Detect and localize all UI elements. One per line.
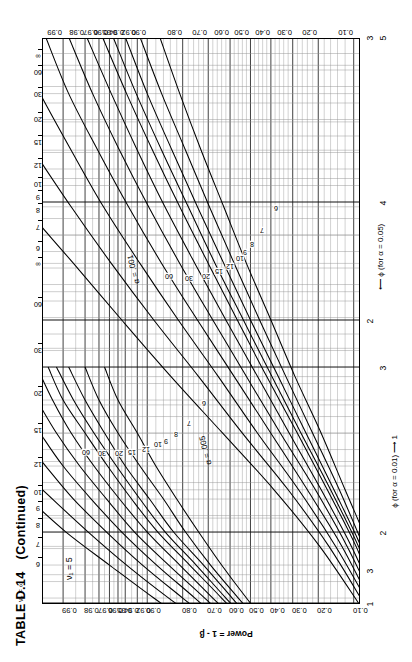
curve-label-alpha05: 15 — [128, 449, 137, 456]
curve-label-alpha01: 8 — [250, 240, 255, 247]
y-tick-label: 0.60 — [229, 606, 244, 615]
nu2-tick-alpha01: 10 — [34, 180, 42, 189]
nu2-tick-mark — [38, 241, 42, 242]
nu2-tick-mark — [38, 297, 42, 298]
nu2-tick-alpha05: 12 — [34, 460, 42, 469]
curve-label-alpha05: 10 — [154, 441, 163, 448]
nu2-tick-mark — [38, 343, 42, 344]
curve-label-alpha05: 12 — [141, 445, 150, 452]
page-title: TABLE D.14(Continued) — [14, 485, 28, 646]
curve-label-alpha05: 8 — [174, 431, 179, 438]
curve-label-alpha01: 30 — [185, 274, 194, 281]
nu2-tick-alpha01: 7 — [36, 223, 40, 232]
y-tick-label-right: 0.30 — [277, 28, 292, 37]
nu2-tick-alpha05: 7 — [36, 540, 40, 549]
nu2-tick-mark — [38, 485, 42, 486]
nu2-tick-mark — [38, 49, 42, 50]
y-axis-title: Power = 1 - β — [200, 629, 253, 639]
x-start-alpha05: 3 — [365, 561, 375, 581]
x-tick-alpha05: 5 — [378, 28, 388, 48]
nu2-tick-mark — [38, 135, 42, 136]
nu2-tick-alpha05: 60 — [34, 300, 42, 309]
curve-label-alpha01: 6 — [273, 204, 278, 211]
continued-label: (Continued) — [14, 485, 28, 560]
x-tick-alpha05: 3 — [378, 358, 388, 378]
nu2-tick-mark — [38, 87, 42, 88]
nu2-tick-mark — [38, 501, 42, 502]
x-tick-alpha05: 4 — [378, 193, 388, 213]
curve-label-alpha01: 10 — [235, 254, 244, 261]
y-tick-label-right: 0.70 — [192, 28, 207, 37]
nu2-tick-mark — [38, 423, 42, 424]
nu2-tick-alpha05: 9 — [36, 504, 40, 513]
curve-label-alpha01: 20 — [202, 272, 211, 279]
nu2-tick-mark — [38, 158, 42, 159]
x-tick-alpha05: 2 — [378, 523, 388, 543]
nu2-tick-mark — [38, 537, 42, 538]
nu2-tick-alpha01: ∞ — [35, 52, 40, 61]
nu2-tick-mark — [38, 557, 42, 558]
nu2-tick-alpha05: 6 — [36, 560, 40, 569]
nu2-tick-mark — [38, 203, 42, 204]
curve-label-alpha05: 60 — [81, 449, 90, 456]
y-tick-label: 0.70 — [207, 606, 222, 615]
x-axis-title-alpha01: ϕ (for α = 0.01) ⟶ 1 — [390, 435, 399, 508]
nu2-tick-mark — [38, 177, 42, 178]
curve-label-alpha05: 7 — [186, 419, 191, 426]
nu2-tick-mark — [38, 457, 42, 458]
curve-label-alpha01: 7 — [260, 227, 265, 234]
nu2-tick-alpha01: 60 — [34, 68, 42, 77]
y-tick-label-right: 0.10 — [338, 28, 353, 37]
nu2-tick-mark — [38, 257, 42, 258]
y-tick-label-right: 0.20 — [302, 28, 317, 37]
curve-label-alpha05: 6 — [201, 399, 206, 406]
y-tick-label: 0.50 — [249, 606, 264, 615]
nu2-tick-alpha01: 30 — [34, 90, 42, 99]
nu2-tick-alpha05: 20 — [34, 389, 42, 398]
y-tick-label: 0.98 — [84, 606, 99, 615]
y-tick-label: 0.20 — [317, 606, 332, 615]
y-tick-label-right: 0.98 — [69, 28, 84, 37]
power-curve-plot — [42, 38, 360, 604]
nu2-tick-alpha01: 20 — [34, 115, 42, 124]
y-tick-label: 0.30 — [292, 606, 307, 615]
x-axis-title-alpha05: ⟵ ϕ (for α = 0.05) — [376, 224, 385, 290]
chart-page: TABLE D.14(Continued) 0.990.990.980.980.… — [0, 0, 412, 662]
nu2-tick-mark — [38, 65, 42, 66]
nu2-tick-alpha01: 12 — [34, 161, 42, 170]
curve-label-alpha05: 30 — [98, 450, 107, 457]
nu2-tick-alpha05: 8 — [36, 521, 40, 530]
x-tick-alpha01: 3 — [365, 28, 375, 48]
nu2-tick-mark — [38, 190, 42, 191]
nu2-tick-mark — [38, 386, 42, 387]
nu2-tick-alpha01: 9 — [36, 193, 40, 202]
y-tick-label: 0.90 — [146, 606, 161, 615]
nu2-tick-alpha05: 30 — [34, 346, 42, 355]
y-tick-label: 0.99 — [62, 606, 77, 615]
nu2-tick-alpha05: ∞ — [35, 260, 40, 269]
nu2-tick-alpha01: 6 — [36, 244, 40, 253]
y-tick-label-right: 0.50 — [235, 28, 250, 37]
x-tick-alpha01: 2 — [365, 311, 375, 331]
nu2-tick-mark — [38, 518, 42, 519]
nu2-tick-alpha05: 10 — [34, 488, 42, 497]
curve-label-alpha01: 12 — [226, 262, 235, 269]
nu1-annotation: ν₁ = 5 — [64, 557, 74, 580]
nu2-tick-alpha01: 15 — [34, 138, 42, 147]
curve-layer — [43, 39, 359, 603]
y-tick-label-right: 0.99 — [47, 28, 62, 37]
nu2-tick-mark — [38, 112, 42, 113]
y-tick-label: 0.40 — [270, 606, 285, 615]
curve-label-alpha05: 20 — [114, 450, 123, 457]
y-tick-label-right: 0.90 — [131, 28, 146, 37]
nu2-tick-mark — [38, 220, 42, 221]
y-tick-label-right: 0.40 — [255, 28, 270, 37]
curve-label-alpha01: 60 — [165, 272, 174, 279]
x-tick-alpha01: 1 — [365, 594, 375, 614]
nu2-axis-caption: ν₂ = ∞ — [16, 582, 25, 602]
nu2-tick-alpha01: 8 — [36, 206, 40, 215]
y-tick-label: 0.80 — [182, 606, 197, 615]
y-tick-label-right: 0.60 — [214, 28, 229, 37]
curve-label-alpha05: 9 — [164, 437, 169, 444]
y-tick-label-right: 0.80 — [167, 28, 182, 37]
